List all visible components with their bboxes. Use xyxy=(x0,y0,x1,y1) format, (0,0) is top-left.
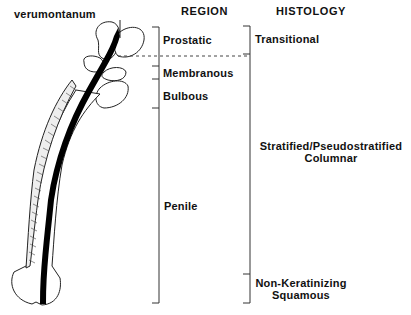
histology-bracket xyxy=(243,26,250,303)
histology-columnar-line1: Stratified/Pseudostratified xyxy=(255,140,407,152)
region-bulbous: Bulbous xyxy=(163,90,208,102)
region-prostatic: Prostatic xyxy=(163,34,212,46)
region-header: REGION xyxy=(181,5,228,17)
verumontanum-label: verumontanum xyxy=(14,8,96,20)
region-bracket xyxy=(152,27,159,303)
region-penile: Penile xyxy=(164,200,198,212)
histology-squamous: Non-Keratinizing Squamous xyxy=(253,277,349,301)
histology-header: HISTOLOGY xyxy=(276,5,346,17)
histology-transitional: Transitional xyxy=(255,33,319,45)
histology-columnar: Stratified/Pseudostratified Columnar xyxy=(255,140,407,164)
histology-squamous-line2: Squamous xyxy=(253,289,349,301)
histology-columnar-line2: Columnar xyxy=(255,152,407,164)
histology-squamous-line1: Non-Keratinizing xyxy=(253,277,349,289)
region-membranous: Membranous xyxy=(163,67,233,79)
